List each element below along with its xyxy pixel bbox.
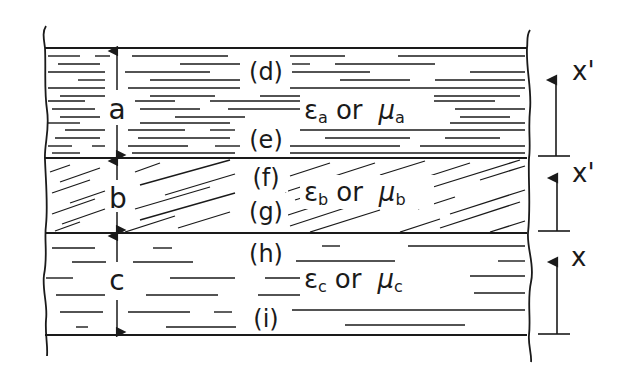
or-word: or <box>336 95 363 125</box>
epsilon-symbol: ε <box>304 95 318 125</box>
mu-subscript: a <box>395 108 405 127</box>
or-word: or <box>335 264 362 294</box>
left-break-line <box>44 26 48 356</box>
or-word: or <box>336 177 363 207</box>
epsilon-subscript: a <box>318 108 328 127</box>
layered-medium-diagram: a b c (d) (e) (f) (g) (h) (i) εaorμa εbo… <box>0 0 619 383</box>
mu-symbol: μ <box>378 177 396 207</box>
point-label-i: (i) <box>253 305 278 333</box>
point-label-f: (f) <box>252 164 279 192</box>
thickness-label-a: a <box>108 93 125 126</box>
mu-subscript: c <box>394 277 403 296</box>
coordinate-axes <box>538 80 570 334</box>
coordinate-label-c: x <box>571 242 586 272</box>
mu-symbol: μ <box>376 264 394 294</box>
point-label-e: (e) <box>249 126 283 154</box>
epsilon-subscript: b <box>318 190 328 209</box>
epsilon-symbol: ε <box>304 264 318 294</box>
coordinate-label-a: x' <box>572 56 595 86</box>
mu-subscript: b <box>395 190 405 209</box>
point-label-d: (d) <box>249 58 283 86</box>
coordinate-label-b: x' <box>572 158 595 188</box>
epsilon-symbol: ε <box>304 177 318 207</box>
point-label-g: (g) <box>249 198 283 226</box>
right-break-line <box>527 30 532 362</box>
mu-symbol: μ <box>377 95 395 125</box>
thickness-label-c: c <box>109 264 124 297</box>
point-label-h: (h) <box>249 240 283 268</box>
thickness-label-b: b <box>109 182 127 215</box>
epsilon-subscript: c <box>318 277 327 296</box>
